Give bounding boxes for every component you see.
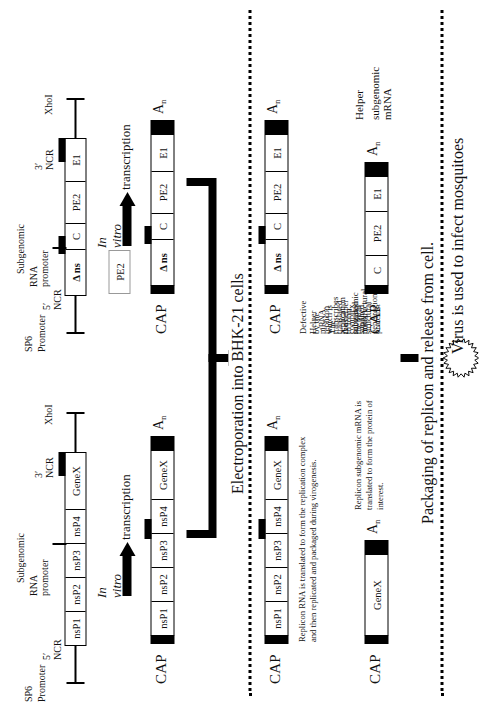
replicon-label-subgenomic-1: Subgenomic bbox=[14, 533, 25, 583]
helper-rna-seg-e1: E1 bbox=[151, 135, 173, 171]
helper-dna-seg-dns: Δ ns bbox=[65, 249, 85, 295]
replicon-incell-seg-nsp1: nsP1 bbox=[265, 601, 287, 635]
helper-label-promoter: Promoter bbox=[35, 315, 46, 352]
helper-subgenomic-cap-block bbox=[364, 285, 388, 294]
helper-dna-bar: Δ ns C PE2 E1 bbox=[64, 138, 86, 296]
replicon-label-5ncr: 5′ NCR bbox=[40, 639, 62, 660]
helper-label-xhoi: XhoI bbox=[42, 94, 53, 115]
replicon-rna-bar: nsP1 nsP2 nsP3 nsP4 GeneX bbox=[150, 450, 174, 636]
helper-incell-seg-dns: Δ ns bbox=[265, 239, 287, 285]
helper-incell-polya-label: An bbox=[264, 99, 282, 114]
helper-incell-sgp-block bbox=[258, 226, 265, 244]
replicon-dna-seg-genex: GeneX bbox=[65, 453, 85, 509]
replicon-subgenomic-cap-label: CAP bbox=[366, 654, 383, 684]
helper-transcription-arrow-head bbox=[119, 192, 135, 206]
helper-rna-bar: Δ ns C PE2 E1 bbox=[150, 134, 174, 286]
replicon-transcription-arrow-head bbox=[119, 542, 135, 556]
replicon-transcription-label: transcription bbox=[118, 474, 133, 540]
helper-rna-seg-dns: Δ ns bbox=[151, 239, 173, 285]
replicon-label-subgenomic-2: RNA promoter bbox=[27, 559, 49, 596]
replicon-incell-polya-block bbox=[264, 436, 288, 450]
replicon-dna-3prime-block bbox=[58, 452, 65, 476]
replicon-dna-seg-nsp2: nsP2 bbox=[65, 577, 85, 611]
infection-label: Virus is used to infect mosquitoes bbox=[448, 138, 466, 354]
replicon-subgenomic-polya-label: An bbox=[364, 519, 382, 534]
replicon-rna-cap-block bbox=[150, 635, 174, 644]
helper-dna-seg-pe2: PE2 bbox=[65, 181, 85, 223]
replicon-label-promoter: Promoter bbox=[35, 665, 46, 702]
helper-subgenomic-seg-pe2: PE2 bbox=[365, 211, 387, 255]
replicon-dna-bar: nsP1 nsP2 nsP3 nsP4 GeneX bbox=[64, 452, 86, 646]
helper-subgenomic-seg-c: C bbox=[365, 255, 387, 285]
replicon-incell-cap-label: CAP bbox=[266, 654, 283, 684]
replicon-invitro-label: In vitro bbox=[94, 574, 123, 598]
helper-subgenomic-seg-e1: E1 bbox=[365, 177, 387, 211]
replicon-subgenomic-polya-block bbox=[364, 540, 388, 554]
replicon-label-3ncr: 3′ NCR bbox=[32, 457, 54, 478]
helper-invitro-label: In vitro bbox=[94, 224, 123, 248]
replicon-subgenomic-caption: Replicon subgenomic mRNA is translated t… bbox=[352, 384, 386, 510]
helper-rna-cap-label: CAP bbox=[152, 304, 169, 334]
helper-dna-3prime-block bbox=[58, 138, 65, 162]
replicon-incell-polya-label: An bbox=[264, 415, 282, 430]
helper-subgenomic-polya-label: An bbox=[364, 141, 382, 156]
replicon-rna-seg-nsp3: nsP3 bbox=[151, 533, 173, 567]
helper-rna-seg-pe2: PE2 bbox=[151, 171, 173, 213]
replicon-rna-seg-nsp1: nsP1 bbox=[151, 601, 173, 635]
helper-dna-seg-e1: E1 bbox=[65, 139, 85, 181]
helper-pe2-box-label: PE2 bbox=[114, 263, 125, 281]
replicon-incell-sgp-block bbox=[258, 519, 265, 539]
helper-backbone-right bbox=[74, 98, 76, 140]
helper-incell-polya-block bbox=[264, 120, 288, 134]
replicon-dna-seg-nsp4: nsP4 bbox=[65, 509, 85, 543]
helper-rna-polya-block bbox=[150, 120, 174, 134]
replicon-dna-seg-nsp3: nsP3 bbox=[65, 543, 85, 577]
helper-dns-junction-block bbox=[58, 236, 65, 254]
helper-label-subgenomic-1: Subgenomic bbox=[14, 224, 25, 274]
helper-subgenomic-caption-line1: Helper bbox=[352, 90, 364, 120]
replicon-label-xhoi: XhoI bbox=[42, 404, 53, 425]
helper-transcription-label: transcription bbox=[118, 124, 133, 190]
replicon-subgenomic-promoter-tick bbox=[52, 543, 66, 545]
helper-incell-cap-label: CAP bbox=[266, 304, 283, 334]
helper-label-3ncr: 3′ NCR bbox=[32, 149, 54, 170]
replicon-rna-seg-nsp2: nsP2 bbox=[151, 567, 173, 601]
replicon-subgenomic-seg-genex: GeneX bbox=[365, 555, 387, 635]
replicon-rna-polya-block bbox=[150, 436, 174, 450]
helper-sp6-tick bbox=[66, 332, 84, 334]
replicon-backbone-right bbox=[74, 412, 76, 454]
replicon-rna-sgp-block bbox=[144, 519, 151, 539]
helper-incell-seg-c: C bbox=[265, 213, 287, 239]
helper-subgenomic-promoter-tick bbox=[52, 247, 66, 249]
replicon-incell-seg-genex: GeneX bbox=[265, 451, 287, 499]
replicon-incell-caption: Replicon RNA is translated to form the r… bbox=[296, 434, 318, 642]
helper-subgenomic-bar: C PE2 E1 bbox=[364, 176, 388, 286]
packaging-label: Packaging of replicon and release from c… bbox=[418, 236, 436, 530]
helper-dna-seg-c: C bbox=[65, 223, 85, 249]
replicon-sp6-tick bbox=[66, 682, 84, 684]
helper-incell-seg-e1: E1 bbox=[265, 135, 287, 171]
electroporation-label: Electroporation into BHK-21 cells bbox=[228, 267, 246, 500]
helper-backbone-left bbox=[74, 294, 76, 334]
replicon-label-sp6: SP6 bbox=[22, 686, 33, 702]
replicon-incell-seg-nsp4: nsP4 bbox=[265, 499, 287, 533]
separator-electroporation bbox=[248, 10, 251, 696]
replicon-incell-seg-nsp2: nsP2 bbox=[265, 567, 287, 601]
helper-label-sp6: SP6 bbox=[22, 336, 33, 352]
helper-incell-cap-block bbox=[264, 285, 288, 294]
replicon-rna-polya-label: An bbox=[150, 415, 168, 430]
helper-label-5ncr: 5′ NCR bbox=[40, 289, 62, 310]
helper-incell-seg-pe2: PE2 bbox=[265, 171, 287, 213]
replicon-subgenomic-bar: GeneX bbox=[364, 554, 388, 636]
replicon-dna-seg-nsp1: nsP1 bbox=[65, 611, 85, 645]
helper-subgenomic-cap-label: CAP bbox=[366, 304, 383, 334]
electroporation-stem bbox=[208, 354, 228, 362]
replicon-rna-seg-nsp4: nsP4 bbox=[151, 499, 173, 533]
figure-canvas: nsP1 nsP2 nsP3 nsP4 GeneX SP6 Promoter 5… bbox=[0, 0, 479, 706]
replicon-rna-cap-label: CAP bbox=[152, 654, 169, 684]
replicon-xhoi-tick bbox=[66, 412, 84, 414]
replicon-subgenomic-cap-block bbox=[364, 635, 388, 644]
helper-pe2-box: PE2 bbox=[108, 250, 130, 294]
replicon-incell-seg-nsp3: nsP3 bbox=[265, 533, 287, 567]
helper-xhoi-tick bbox=[66, 98, 84, 100]
